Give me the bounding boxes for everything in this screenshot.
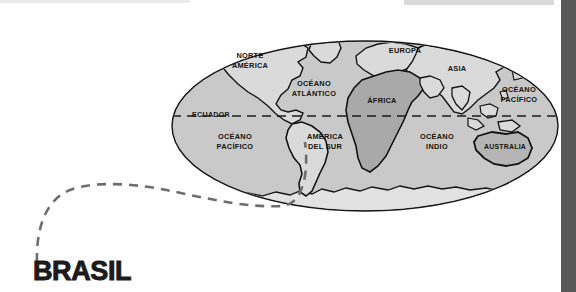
label-pacific-ocean-east-line1: OCÉANO [502,85,536,94]
world-map-slide: NORTE AMÉRICA OCÉANO ATLÁNTICO EUROPA AS… [0,0,576,292]
right-edge-bar [561,0,576,292]
label-europe: EUROPA [389,46,422,55]
page-title: BRASIL [33,258,131,285]
world-map-graphic: NORTE AMÉRICA OCÉANO ATLÁNTICO EUROPA AS… [0,0,576,292]
label-indian-ocean-line2: INDIO [426,142,448,151]
label-north-america-line1: NORTE [236,51,263,60]
label-australia: AUSTRALIA [484,143,526,150]
label-pacific-ocean-west-line1: OCÉANO [218,132,252,141]
label-indian-ocean-line1: OCÉANO [420,132,454,141]
label-pacific-ocean-east-line2: PACÍFICO [501,95,538,104]
label-atlantic-ocean-line1: OCÉANO [297,79,331,88]
label-pacific-ocean-west-line2: PACÍFICO [217,142,254,151]
label-south-america-line2: DEL SUR [308,142,342,151]
label-asia: ASIA [448,64,467,73]
label-south-america-line1: AMÉRICA [307,132,344,141]
label-africa: ÁFRICA [367,96,397,105]
label-equator: ECUADOR [192,111,230,119]
label-north-america-line2: AMÉRICA [232,61,269,70]
label-atlantic-ocean-line2: ATLÁNTICO [292,89,336,98]
